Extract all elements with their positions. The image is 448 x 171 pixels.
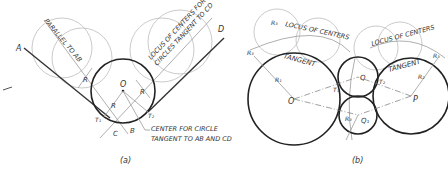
label-r3: R₃	[271, 19, 278, 26]
label-o: O	[120, 80, 126, 89]
label-r: R	[140, 88, 145, 96]
label-r3: R₃	[247, 49, 254, 56]
locus-label-left: LOCUS OF CENTERS	[285, 20, 350, 41]
locus-label-line2: CIRCLES TANGENT TO CD	[153, 1, 215, 67]
label-r: R	[111, 102, 116, 110]
figure-a: A D C B O T₁ T₂ R R R PARALLEL TO AB LOC…	[15, 0, 232, 165]
label-q: Q	[360, 74, 366, 82]
label-q1: Q₁	[361, 117, 370, 125]
label-o: O	[288, 97, 294, 106]
label-t1: T₁	[333, 86, 340, 93]
label-t1: T₁	[95, 116, 102, 123]
tangent-label-left: TANGENT	[282, 52, 317, 68]
label-r2: R₂	[418, 73, 425, 80]
label-t2: T₂	[379, 78, 386, 85]
caption-b: (b)	[352, 156, 363, 165]
line-ab	[24, 48, 110, 118]
label-r1: R₁	[275, 76, 282, 83]
construction-circle	[32, 18, 92, 78]
locus-label-right: LOCUS OF CENTERS	[370, 23, 435, 48]
center-line-oq1	[294, 99, 358, 115]
label-d: D	[218, 25, 224, 34]
label-t2: T₂	[148, 112, 155, 119]
label-c: C	[113, 130, 118, 138]
label-p: P	[413, 95, 418, 104]
caption-a: (a)	[120, 156, 131, 165]
label-r3: R₃	[433, 52, 440, 59]
locus-label-line1: LOCUS OF CENTERS FOR	[147, 0, 208, 61]
radius-r1-line	[254, 56, 294, 99]
figure-b: O P Q Q₁ T₁ T₂ R₁ R₂ R₃ R₃ R₃ R₃ LOCUS O…	[247, 9, 448, 165]
stray-mark	[3, 87, 12, 90]
center-note-line2: TANGENT TO AB AND CD	[151, 135, 232, 143]
parallel-to-cd-line	[100, 18, 212, 138]
center-line-oq	[294, 77, 358, 99]
center-line-pq1	[358, 96, 411, 115]
label-b: B	[130, 127, 135, 135]
construction-circle	[254, 9, 300, 55]
label-r: R	[83, 76, 88, 84]
label-r3: R₃	[345, 115, 352, 122]
tangent-label-right: TANGENT	[387, 57, 422, 73]
center-note-line1: CENTER FOR CIRCLE	[151, 125, 219, 133]
leader-line	[123, 91, 145, 130]
parallel-to-ab-label: PARALLEL TO AB	[42, 17, 83, 64]
tangent-circle-diagram: A D C B O T₁ T₂ R R R PARALLEL TO AB LOC…	[0, 0, 448, 171]
label-a: A	[15, 44, 21, 53]
